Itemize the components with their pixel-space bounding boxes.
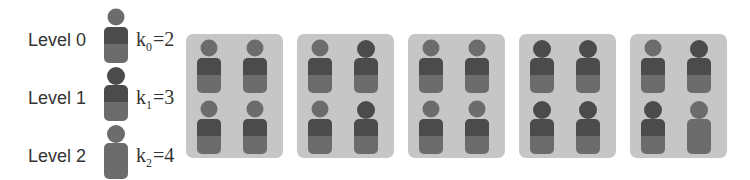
k-value-level-0: k0=2: [136, 28, 174, 58]
person-icon-level-0: [243, 40, 267, 94]
person-icon-level-0: [465, 40, 489, 94]
legend-label-level-0: Level 0: [28, 30, 86, 50]
person-icon-level-0: [308, 101, 332, 155]
person-icon-level-0: [419, 101, 443, 155]
person-icon-level-0: [419, 40, 443, 94]
person-icon-level-1: [687, 40, 711, 93]
group-box-1: [186, 34, 283, 158]
group-box-4: [519, 34, 616, 158]
k-value-level-2: k2=4: [136, 144, 174, 174]
group-box-2: [297, 34, 394, 158]
person-icon-level-1: [641, 101, 665, 154]
person-icon-level-2: [100, 124, 132, 180]
person-icon-level-0: [308, 40, 332, 94]
person-icon-level-1: [354, 40, 378, 93]
legend-label-level-1: Level 1: [28, 88, 86, 108]
person-icon-level-2: [687, 101, 711, 154]
person-icon-level-1: [354, 101, 378, 154]
person-icon-level-1: [530, 40, 554, 93]
person-icon-level-0: [197, 101, 221, 155]
person-icon-level-1: [100, 66, 132, 122]
group-box-5: [630, 34, 727, 158]
person-icon-level-0: [100, 8, 132, 64]
group-box-3: [408, 34, 505, 158]
k-value-level-1: k1=3: [136, 86, 174, 116]
person-icon-level-0: [243, 101, 267, 155]
person-icon-level-1: [576, 101, 600, 154]
person-icon-level-0: [465, 101, 489, 155]
person-icon-level-0: [641, 40, 665, 94]
legend-label-level-2: Level 2: [28, 146, 86, 166]
person-icon-level-1: [576, 40, 600, 93]
person-icon-level-0: [197, 40, 221, 94]
person-icon-level-1: [530, 101, 554, 154]
